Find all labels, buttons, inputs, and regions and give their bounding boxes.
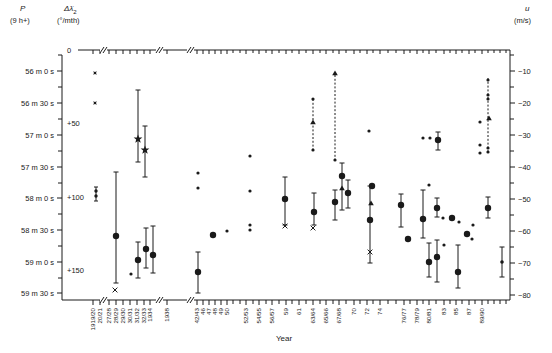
data-point-circle <box>464 231 470 237</box>
x-axis-tick-label: 61 <box>295 307 302 314</box>
data-point-circle <box>143 246 149 252</box>
x-axis-tick-label: 78/79 <box>413 307 420 323</box>
data-point-circle <box>311 209 317 215</box>
p-axis-tick-label: 57 m 30 s <box>21 163 54 172</box>
x-axis-tick-label: 50 <box>223 307 230 314</box>
data-point-circle <box>345 190 351 196</box>
x-axis-tick-label: 72 <box>363 307 370 314</box>
x-axis-tick-label: 28/29 <box>112 307 119 323</box>
x-axis-tick-label: 30/31 <box>126 307 133 323</box>
x-axis-tick-label: 89/90 <box>478 307 485 323</box>
data-point-dot <box>196 186 199 189</box>
data-point-triangle <box>332 70 338 75</box>
x-axis-tick-label: 1938 <box>163 307 170 321</box>
data-point-dot <box>486 146 489 149</box>
data-point-double-dot <box>94 189 97 192</box>
x-axis-tick-label: 20/21 <box>96 307 103 323</box>
data-point-triangle <box>310 119 316 124</box>
data-point-dot <box>441 216 444 219</box>
x-axis-tick-label: 52/53 <box>242 307 249 323</box>
data-point-double-dot <box>94 194 97 197</box>
data-point-circle <box>210 232 216 238</box>
data-point-circle <box>405 236 411 242</box>
data-point-dot <box>248 223 251 226</box>
data-point-dot <box>225 229 228 232</box>
data-point-dot <box>367 129 370 132</box>
data-point-dot <box>428 136 431 139</box>
dlambda-scale-label: 0 <box>67 46 71 55</box>
data-point-dot <box>427 183 430 186</box>
dlambda-scale-label: +50 <box>67 119 80 128</box>
p-axis-tick-label: 56 m 30 s <box>21 99 54 108</box>
data-point-triangle <box>486 115 492 120</box>
x-axis-tick-label: 56/57 <box>268 307 275 323</box>
p-axis-tick-label: 59 m 30 s <box>21 289 54 298</box>
x-axis-tick-label: 27/28 <box>105 307 112 323</box>
x-axis-tick-label: 65/66 <box>322 307 329 323</box>
p-axis-tick-label: 59 m 0 s <box>25 258 54 267</box>
data-point-dot <box>471 223 474 226</box>
data-point-dot <box>311 148 314 151</box>
data-point-circle <box>420 216 426 222</box>
x-axis-tick-label: 67/68 <box>335 307 342 323</box>
x-axis-tick-label: 85 <box>452 307 459 314</box>
data-point-circle <box>500 260 504 264</box>
x-axis-tick-label: 31/32 <box>133 307 140 323</box>
data-point-dot <box>478 120 481 123</box>
u-axis-tick-label: −40 <box>518 163 531 172</box>
data-point-circle <box>367 217 373 223</box>
data-point-dot <box>457 220 460 223</box>
u-axis-tick-label: −50 <box>518 195 531 204</box>
p-axis-tick-label: 56 m 0 s <box>25 67 54 76</box>
u-axis-tick-label: −80 <box>518 291 531 300</box>
data-point-dot <box>248 228 251 231</box>
dlambda-scale-label: +100 <box>67 193 84 202</box>
p-axis-tick-label: 58 m 0 s <box>25 194 54 203</box>
data-point-dot <box>196 171 199 174</box>
x-axis-tick-label: 54/55 <box>255 307 262 323</box>
dlambda-scale-label: +150 <box>67 266 84 275</box>
data-point-triangle <box>368 200 374 205</box>
x-axis-tick-label: 83 <box>440 307 447 314</box>
data-point-small-star <box>93 101 97 105</box>
data-point-circle <box>455 269 461 275</box>
p-axis-tick-label: 57 m 0 s <box>25 131 54 140</box>
data-point-dot <box>129 272 132 275</box>
data-point-circle <box>113 233 119 239</box>
data-point-circle <box>332 199 338 205</box>
x-axis-tick-label: 1934 <box>146 307 153 321</box>
x-axis-tick-label: 74 <box>376 307 383 314</box>
x-axis-tick-label: 87 <box>465 307 472 314</box>
data-point-dot <box>442 243 445 246</box>
x-axis-tick-label: 59 <box>282 307 289 314</box>
data-point-circle <box>135 257 141 263</box>
data-point-dot <box>478 143 481 146</box>
u-axis-tick-label: −60 <box>518 227 531 236</box>
data-point-dot <box>486 78 489 81</box>
x-axis-tick-label: 29/30 <box>119 307 126 323</box>
data-point-triangle <box>339 185 345 190</box>
data-point-dot <box>470 237 473 240</box>
chart-figure: P (9 h+) Δλ̇2 (°/mth) u (m/s) 56 m 0 s56… <box>0 0 552 353</box>
data-point-dot <box>486 97 489 100</box>
u-axis-tick-label: −10 <box>518 67 531 76</box>
data-point-circle <box>449 215 455 221</box>
data-point-circle <box>426 259 432 265</box>
data-point-dot <box>486 93 489 96</box>
x-axis-tick-label: 76/77 <box>400 307 407 323</box>
x-axis-tick-label: 1919/20 <box>89 307 96 330</box>
u-axis-tick-label: −70 <box>518 259 531 268</box>
p-axis-tick-label: 58 m 30 s <box>21 226 54 235</box>
data-point-dot <box>311 97 314 100</box>
chart-canvas: 56 m 0 s56 m 30 s57 m 0 s57 m 30 s58 m 0… <box>0 0 552 353</box>
x-axis-tick-label: 70 <box>350 307 357 314</box>
data-point-dot <box>478 151 481 154</box>
data-point-circle <box>282 196 288 202</box>
data-point-circle <box>369 183 375 189</box>
x-axis-tick-label: 63/64 <box>309 307 316 323</box>
data-point-circle <box>435 137 441 143</box>
data-point-dot <box>248 154 251 157</box>
data-point-dot <box>248 189 251 192</box>
x-axis-title: Year <box>276 334 293 343</box>
data-point-dot <box>486 150 489 153</box>
